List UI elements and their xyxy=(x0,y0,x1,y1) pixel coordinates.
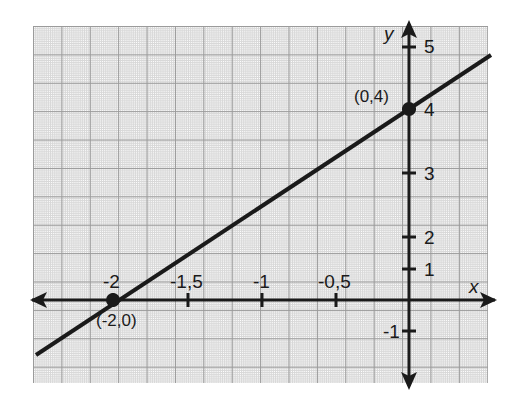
point-marker-x-intercept xyxy=(106,293,120,307)
x-tick-label--1: -1 xyxy=(253,272,270,291)
y-tick-label-4: 4 xyxy=(424,100,435,119)
line-y-equals-2x-plus-4 xyxy=(36,55,491,355)
y-tick-label-3: 3 xyxy=(424,164,435,183)
y-tick-label-2: 2 xyxy=(424,228,435,247)
plot-canvas xyxy=(0,0,512,406)
point-label-x-intercept: (-2,0) xyxy=(96,312,137,329)
x-tick-label--2: -2 xyxy=(103,272,120,291)
point-marker-y-intercept xyxy=(402,102,416,116)
y-tick-label--1: -1 xyxy=(383,322,400,341)
x-tick-label--0.5: -0,5 xyxy=(318,272,351,291)
x-axis-label: x xyxy=(469,277,479,296)
x-tick-label--1.5: -1,5 xyxy=(170,272,203,291)
y-tick-label-1: 1 xyxy=(424,260,435,279)
point-label-y-intercept: (0,4) xyxy=(354,88,389,105)
y-tick-label-5: 5 xyxy=(424,37,435,56)
y-axis-label: y xyxy=(384,24,394,43)
graph-screenshot: y x -2 -1,5 -1 -0,5 5 4 3 2 1 -1 (-2,0) … xyxy=(0,0,512,406)
